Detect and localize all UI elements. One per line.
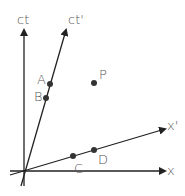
ct-axis-label: ct: [17, 12, 29, 27]
point-b-label: B: [34, 89, 43, 104]
point-d: [91, 147, 97, 153]
point-p-label: P: [99, 67, 107, 82]
ct-prime-axis-label: ct': [68, 12, 84, 27]
point-a: [47, 81, 53, 87]
x-prime-axis-label: x': [167, 118, 178, 133]
point-p: [91, 80, 97, 86]
point-c-label: C: [74, 161, 83, 176]
point-d-label: D: [98, 152, 108, 167]
point-a-label: A: [37, 72, 46, 87]
ct-prime-axis: [21, 30, 66, 186]
point-b: [43, 95, 49, 101]
point-c: [70, 153, 76, 159]
x-axis-label: x: [167, 163, 175, 178]
spacetime-diagram: ct ct' x x' A B P C D: [0, 0, 185, 196]
x-prime-axis: [10, 129, 165, 175]
